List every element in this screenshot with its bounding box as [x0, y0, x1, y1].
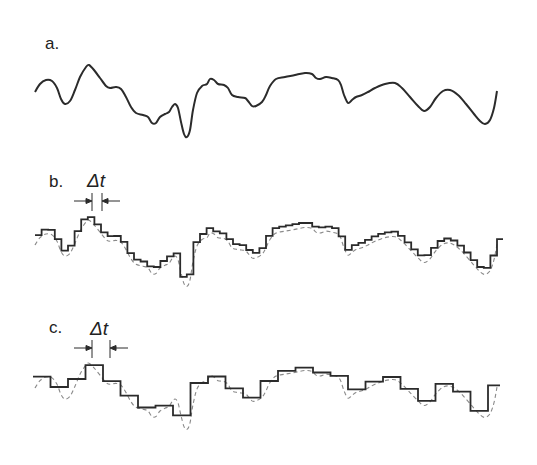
panel-c-delta-t-arrows [74, 340, 128, 358]
panel-c-reference-dashed-curve [35, 363, 497, 430]
panel-b-reference-dashed-curve [35, 220, 497, 287]
panel-b-delta-t-arrows [74, 193, 120, 211]
panel-b-step-signal [35, 217, 503, 277]
signal-sampling-diagram [0, 0, 537, 465]
panel-a-continuous-curve [35, 65, 497, 137]
panel-c-step-signal [33, 365, 500, 415]
